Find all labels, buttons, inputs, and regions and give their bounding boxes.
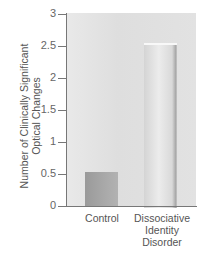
y-axis-label-line-1: Number of Clinically Significant [18,26,30,206]
x-label-control: Control [76,212,128,224]
x-label-did: Dissociative Identity Disorder [126,212,198,248]
y-tick [58,78,66,79]
bar-control [85,172,118,206]
y-axis-label-line-2: Optical Changes [30,26,42,206]
y-tick-label: 3 [26,8,56,19]
y-axis-label: Number of Clinically Significant Optical… [18,26,42,206]
y-axis [66,13,67,207]
x-label-did-line-3: Disorder [126,236,198,248]
bar-dissociative-identity-disorder [144,43,177,208]
y-tick [58,206,66,207]
y-tick [58,142,66,143]
x-label-did-line-1: Dissociative [126,212,198,224]
x-label-did-line-2: Identity [126,224,198,236]
x-label-control-line: Control [76,212,128,224]
y-tick [58,174,66,175]
y-tick [58,46,66,47]
y-tick [58,110,66,111]
y-tick [58,14,66,15]
x-axis [66,206,197,207]
